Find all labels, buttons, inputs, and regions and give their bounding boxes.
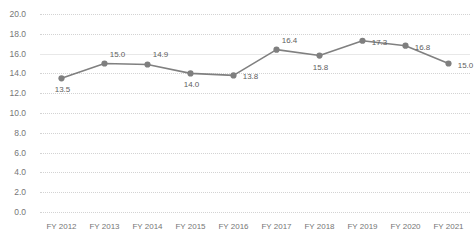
y-axis-tick-label: 12.0 [0, 88, 26, 98]
data-point-marker [273, 47, 279, 53]
data-point-marker [445, 60, 451, 66]
x-axis-tick-label: FY 2019 [347, 222, 377, 231]
x-axis-tick-label: FY 2020 [390, 222, 420, 231]
data-point-marker [101, 60, 107, 66]
y-axis-tick-label: 16.0 [0, 49, 26, 59]
x-axis-tick-label: FY 2021 [433, 222, 463, 231]
y-axis-tick-label: 20.0 [0, 9, 26, 19]
data-point-marker [230, 72, 236, 78]
y-axis-tick-label: 14.0 [0, 68, 26, 78]
y-axis-tick-label: 18.0 [0, 29, 26, 39]
data-point-label: 17.3 [372, 37, 388, 46]
y-axis-tick-label: 6.0 [0, 148, 26, 158]
x-axis-tick-label: FY 2013 [89, 222, 119, 231]
data-point-label: 13.8 [243, 72, 259, 81]
data-series-line [40, 14, 470, 212]
data-point-label: 15.0 [458, 60, 474, 69]
data-point-label: 13.5 [55, 85, 71, 94]
data-point-label: 16.4 [282, 35, 298, 44]
line-chart: 20.018.016.014.012.010.08.06.04.02.00.0 … [0, 0, 476, 235]
y-axis-tick-label: 2.0 [0, 187, 26, 197]
data-point-label: 16.8 [415, 42, 431, 51]
x-axis-tick-label: FY 2015 [175, 222, 205, 231]
data-point-label: 15.8 [313, 62, 329, 71]
data-point-marker [58, 75, 64, 81]
gridline [40, 212, 470, 213]
x-axis-tick-label: FY 2016 [218, 222, 248, 231]
data-point-marker [144, 61, 150, 67]
data-point-label: 14.0 [184, 80, 200, 89]
data-point-label: 15.0 [110, 49, 126, 58]
x-axis-tick-label: FY 2014 [132, 222, 162, 231]
y-axis-tick-label: 8.0 [0, 128, 26, 138]
data-point-marker [359, 38, 365, 44]
y-axis-tick-label: 0.0 [0, 207, 26, 217]
x-axis-tick-label: FY 2018 [304, 222, 334, 231]
data-point-label: 14.9 [153, 50, 169, 59]
y-axis-tick-label: 4.0 [0, 167, 26, 177]
y-axis-tick-label: 10.0 [0, 108, 26, 118]
data-point-marker [187, 70, 193, 76]
plot-area: 20.018.016.014.012.010.08.06.04.02.00.0 … [40, 14, 470, 212]
x-axis-tick-label: FY 2017 [261, 222, 291, 231]
data-point-marker [402, 43, 408, 49]
data-point-marker [316, 52, 322, 58]
x-axis-tick-label: FY 2012 [46, 222, 76, 231]
